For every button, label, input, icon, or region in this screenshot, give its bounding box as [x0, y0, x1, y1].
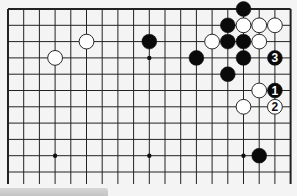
stone-circle [236, 51, 251, 66]
stone-circle [252, 18, 267, 33]
stone-circle [252, 83, 267, 98]
white-stone[interactable] [48, 51, 63, 66]
white-stone[interactable] [252, 34, 267, 49]
stone-circle [236, 18, 251, 33]
go-board[interactable]: 312 [0, 0, 297, 188]
white-stone[interactable] [79, 34, 94, 49]
black-stone[interactable] [252, 148, 267, 163]
black-stone[interactable]: 3 [268, 51, 283, 66]
move-number-label: 3 [272, 51, 279, 65]
stone-circle [252, 34, 267, 49]
black-stone[interactable] [236, 34, 251, 49]
stone-circle [48, 51, 63, 66]
star-point [53, 154, 57, 158]
stone-circle [205, 34, 220, 49]
move-number-label: 2 [272, 100, 279, 114]
stone-circle [220, 34, 235, 49]
stone-circle [236, 34, 251, 49]
star-point [147, 154, 151, 158]
black-stone[interactable] [236, 51, 251, 66]
stone-circle [236, 99, 251, 114]
white-stone[interactable] [236, 18, 251, 33]
stone-circle [220, 18, 235, 33]
stone-circle [268, 18, 283, 33]
white-stone[interactable] [252, 18, 267, 33]
stone-circle [189, 51, 204, 66]
stone-circle [236, 2, 251, 17]
white-stone[interactable] [205, 34, 220, 49]
white-stone[interactable]: 2 [268, 99, 283, 114]
stone-circle [220, 67, 235, 82]
white-stone[interactable] [236, 99, 251, 114]
move-number-label: 1 [272, 84, 279, 98]
stone-circle [79, 34, 94, 49]
black-stone[interactable] [142, 34, 157, 49]
stone-circle [142, 34, 157, 49]
white-stone[interactable] [252, 83, 267, 98]
white-stone[interactable] [268, 18, 283, 33]
black-stone[interactable] [236, 2, 251, 17]
black-stone[interactable] [220, 18, 235, 33]
black-stone[interactable] [220, 34, 235, 49]
black-stone[interactable]: 1 [268, 83, 283, 98]
black-stone[interactable] [220, 67, 235, 82]
black-stone[interactable] [189, 51, 204, 66]
star-point [147, 56, 151, 60]
caption-bar [0, 188, 108, 196]
stone-circle [252, 148, 267, 163]
star-point [241, 154, 245, 158]
